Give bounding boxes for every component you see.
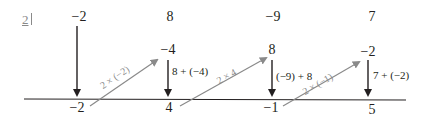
bottom-value-2: 4	[166, 101, 173, 115]
down-label-1: 8 + (−4)	[172, 66, 208, 77]
down-label-2: (−9) + 8	[276, 71, 312, 82]
bottom-value-3: −1	[264, 101, 279, 115]
down-label-3: 7 + (−2)	[373, 70, 409, 81]
middle-value-3: −2	[361, 45, 376, 59]
bottom-value-1: −2	[70, 101, 85, 115]
diagram-lines	[0, 0, 432, 122]
top-value-1: −2	[72, 10, 87, 24]
top-value-3: −9	[266, 10, 281, 24]
top-value-2: 8	[167, 10, 174, 24]
middle-value-1: −4	[161, 43, 176, 57]
question-number: 2	[22, 12, 29, 28]
bottom-value-4: 5	[369, 103, 376, 117]
top-value-4: 7	[369, 10, 376, 24]
middle-value-2: 8	[269, 43, 276, 57]
